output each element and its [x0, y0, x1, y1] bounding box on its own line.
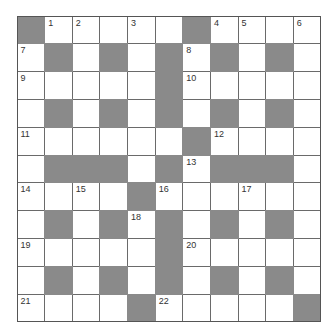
letter-cell[interactable] [72, 127, 101, 156]
letter-cell[interactable] [44, 294, 73, 323]
letter-cell[interactable] [238, 71, 267, 100]
letter-cell[interactable]: 4 [210, 16, 239, 45]
letter-cell[interactable]: 13 [182, 155, 211, 184]
letter-cell[interactable] [44, 182, 73, 211]
letter-cell[interactable] [155, 16, 184, 45]
letter-cell[interactable] [44, 127, 73, 156]
clue-number: 1 [48, 18, 53, 28]
letter-cell[interactable] [72, 210, 101, 239]
clue-number: 22 [159, 296, 169, 306]
letter-cell[interactable] [44, 238, 73, 267]
letter-cell[interactable] [265, 16, 294, 45]
letter-cell[interactable] [99, 16, 128, 45]
block-cell [155, 99, 184, 128]
letter-cell[interactable]: 17 [238, 182, 267, 211]
letter-cell[interactable] [293, 155, 322, 184]
letter-cell[interactable]: 2 [72, 16, 101, 45]
letter-cell[interactable] [293, 99, 322, 128]
letter-cell[interactable]: 1 [44, 16, 73, 45]
letter-cell[interactable]: 12 [210, 127, 239, 156]
letter-cell[interactable] [72, 266, 101, 295]
letter-cell[interactable] [238, 238, 267, 267]
letter-cell[interactable] [99, 294, 128, 323]
letter-cell[interactable] [127, 71, 156, 100]
letter-cell[interactable]: 18 [127, 210, 156, 239]
letter-cell[interactable] [265, 238, 294, 267]
letter-cell[interactable] [293, 127, 322, 156]
block-cell [265, 266, 294, 295]
letter-cell[interactable] [293, 238, 322, 267]
letter-cell[interactable] [238, 99, 267, 128]
letter-cell[interactable] [72, 43, 101, 72]
letter-cell[interactable] [72, 238, 101, 267]
letter-cell[interactable] [17, 155, 46, 184]
letter-cell[interactable] [99, 238, 128, 267]
letter-cell[interactable]: 15 [72, 182, 101, 211]
block-cell [155, 155, 184, 184]
letter-cell[interactable] [182, 294, 211, 323]
letter-cell[interactable]: 7 [17, 43, 46, 72]
block-cell [99, 210, 128, 239]
block-cell [17, 16, 46, 45]
letter-cell[interactable] [265, 182, 294, 211]
letter-cell[interactable] [99, 127, 128, 156]
block-cell [265, 43, 294, 72]
block-cell [155, 71, 184, 100]
letter-cell[interactable] [127, 155, 156, 184]
letter-cell[interactable]: 9 [17, 71, 46, 100]
clue-number: 13 [186, 157, 196, 167]
block-cell [210, 210, 239, 239]
letter-cell[interactable] [72, 99, 101, 128]
letter-cell[interactable] [210, 294, 239, 323]
letter-cell[interactable] [210, 71, 239, 100]
letter-cell[interactable]: 16 [155, 182, 184, 211]
letter-cell[interactable] [210, 238, 239, 267]
letter-cell[interactable]: 19 [17, 238, 46, 267]
letter-cell[interactable] [182, 266, 211, 295]
letter-cell[interactable] [238, 294, 267, 323]
letter-cell[interactable] [238, 210, 267, 239]
letter-cell[interactable] [293, 210, 322, 239]
letter-cell[interactable]: 11 [17, 127, 46, 156]
letter-cell[interactable]: 20 [182, 238, 211, 267]
letter-cell[interactable] [293, 43, 322, 72]
letter-cell[interactable] [238, 43, 267, 72]
letter-cell[interactable] [127, 238, 156, 267]
letter-cell[interactable] [210, 182, 239, 211]
letter-cell[interactable] [72, 294, 101, 323]
letter-cell[interactable]: 8 [182, 43, 211, 72]
letter-cell[interactable] [182, 182, 211, 211]
letter-cell[interactable] [99, 182, 128, 211]
letter-cell[interactable]: 6 [293, 16, 322, 45]
letter-cell[interactable] [238, 266, 267, 295]
letter-cell[interactable] [17, 266, 46, 295]
block-cell [72, 155, 101, 184]
letter-cell[interactable] [99, 71, 128, 100]
letter-cell[interactable]: 3 [127, 16, 156, 45]
letter-cell[interactable] [265, 127, 294, 156]
clue-number: 10 [186, 73, 196, 83]
letter-cell[interactable]: 14 [17, 182, 46, 211]
letter-cell[interactable] [182, 210, 211, 239]
letter-cell[interactable]: 10 [182, 71, 211, 100]
letter-cell[interactable] [155, 127, 184, 156]
letter-cell[interactable] [17, 210, 46, 239]
letter-cell[interactable]: 5 [238, 16, 267, 45]
letter-cell[interactable] [265, 71, 294, 100]
letter-cell[interactable] [293, 182, 322, 211]
letter-cell[interactable]: 22 [155, 294, 184, 323]
letter-cell[interactable] [127, 99, 156, 128]
block-cell [99, 43, 128, 72]
letter-cell[interactable] [265, 294, 294, 323]
letter-cell[interactable] [127, 127, 156, 156]
letter-cell[interactable] [293, 266, 322, 295]
letter-cell[interactable] [238, 127, 267, 156]
letter-cell[interactable] [127, 266, 156, 295]
letter-cell[interactable] [17, 99, 46, 128]
letter-cell[interactable] [293, 71, 322, 100]
letter-cell[interactable] [44, 71, 73, 100]
letter-cell[interactable] [182, 99, 211, 128]
letter-cell[interactable]: 21 [17, 294, 46, 323]
letter-cell[interactable] [72, 71, 101, 100]
letter-cell[interactable] [127, 43, 156, 72]
